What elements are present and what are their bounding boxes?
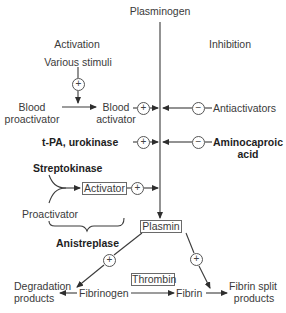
aminocaproic-acid-line1: Aminocaproic <box>212 136 284 148</box>
activation-header: Activation <box>41 38 113 50</box>
degradation-products-line1: Degradation <box>14 280 71 292</box>
plus-sign-icon: + <box>137 136 150 149</box>
various-stimuli-label: Various stimuli <box>38 56 118 68</box>
fibrinogen-label: Fibrinogen <box>79 287 129 299</box>
plus-sign-icon: + <box>137 102 150 115</box>
fibrinolysis-diagram: Plasminogen Activation Inhibition Variou… <box>0 0 286 313</box>
proactivator-label: Proactivator <box>22 208 78 220</box>
plus-sign-icon: + <box>103 254 116 267</box>
plus-sign-icon: + <box>72 78 85 91</box>
blood-proactivator-line1: Blood <box>2 101 62 113</box>
fibrin-split-products-line2: products <box>226 292 282 304</box>
activator-box: Activator <box>82 182 127 195</box>
antiactivators-label: Antiactivators <box>213 102 276 114</box>
inhibition-header: Inhibition <box>197 38 263 50</box>
blood-proactivator-line2: proactivator <box>2 113 62 125</box>
aminocaproic-acid-line2: acid <box>212 148 284 160</box>
degradation-products-line2: products <box>14 292 54 304</box>
minus-sign-icon: − <box>192 102 205 115</box>
anistreplase-label: Anistreplase <box>56 237 119 249</box>
thrombin-box: Thrombin <box>131 273 175 286</box>
tpa-urokinase-label: t-PA, urokinase <box>42 136 118 148</box>
blood-activator-line2: activator <box>93 113 139 125</box>
plus-sign-icon: + <box>131 182 144 195</box>
minus-sign-icon: − <box>192 136 205 149</box>
blood-activator-line1: Blood <box>96 101 136 113</box>
plasminogen-label: Plasminogen <box>118 5 202 17</box>
streptokinase-label: Streptokinase <box>33 162 102 174</box>
plus-sign-icon: + <box>190 253 203 266</box>
fibrin-split-products-line1: Fibrin split <box>222 280 284 292</box>
plasmin-box: Plasmin <box>140 220 182 233</box>
fibrin-label: Fibrin <box>176 287 202 299</box>
